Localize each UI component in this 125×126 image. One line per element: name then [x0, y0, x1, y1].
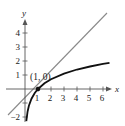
y-axis-label: y: [21, 8, 26, 18]
point-marker: [36, 87, 41, 92]
svg-text:2: 2: [48, 93, 53, 103]
svg-text:−2: −2: [10, 112, 20, 122]
svg-text:6: 6: [100, 93, 105, 103]
point-label: (1, 0): [30, 72, 51, 83]
x-axis-arrow-icon: [106, 87, 112, 92]
svg-text:3: 3: [61, 93, 66, 103]
tangent-line: [8, 13, 107, 115]
svg-text:3: 3: [16, 42, 21, 52]
svg-text:1: 1: [16, 70, 21, 80]
ln-tangent-figure: x y 1 2 3 4 5 6 4 3 2 1 −2 (1, 0): [0, 0, 125, 126]
svg-text:2: 2: [16, 56, 21, 66]
svg-text:5: 5: [87, 93, 92, 103]
x-axis-label: x: [114, 84, 119, 94]
svg-text:4: 4: [16, 28, 21, 38]
svg-text:1: 1: [35, 93, 40, 103]
y-axis-arrow-icon: [23, 19, 28, 25]
x-tick-labels: 1 2 3 4 5 6: [35, 93, 105, 103]
svg-text:4: 4: [74, 93, 79, 103]
